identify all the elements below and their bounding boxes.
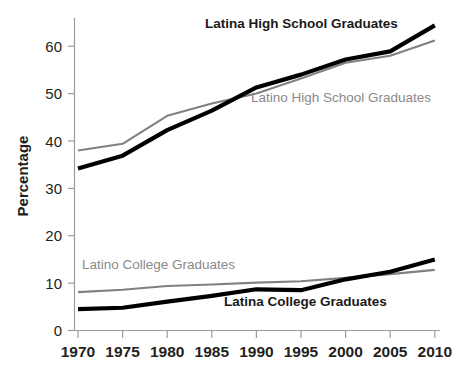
x-tick-label-1980: 1980 [150,343,184,360]
y-tick-label-0: 0 [54,322,62,339]
series-label-latina-high-school: Latina High School Graduates [205,16,398,31]
x-tick-label-1975: 1975 [105,343,140,360]
series-label-latino-high-school: Latino High School Graduates [251,90,431,105]
x-tick-label-1990: 1990 [239,343,273,360]
y-tick-label-40: 40 [45,133,62,150]
y-axis [68,18,75,331]
x-tick-label-2000: 2000 [328,343,362,360]
x-tick-label-1995: 1995 [284,343,319,360]
y-tick-label-30: 30 [45,180,62,197]
x-tick-label-2005: 2005 [373,343,408,360]
x-tick-label-2010: 2010 [418,343,452,360]
x-tick-label-1985: 1985 [195,343,230,360]
chart-canvas: 0 10 20 30 40 50 60 1970 1975 1980 1985 … [0,0,460,372]
y-axis-title: Percentage [14,136,31,217]
y-tick-label-50: 50 [45,85,62,102]
series-label-latina-college: Latina College Graduates [224,294,387,309]
series-label-latino-college: Latino College Graduates [82,257,235,272]
line-chart: 0 10 20 30 40 50 60 1970 1975 1980 1985 … [0,0,460,372]
y-tick-label-60: 60 [45,38,62,55]
x-tick-label-1970: 1970 [61,343,95,360]
y-tick-label-10: 10 [45,275,62,292]
y-tick-label-20: 20 [45,227,62,244]
x-axis [75,331,441,339]
